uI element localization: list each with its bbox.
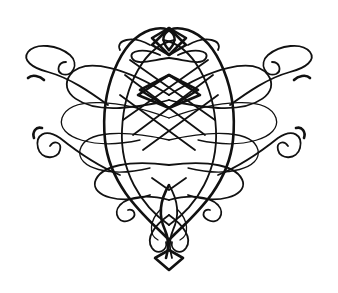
ornament-canvas: Calligraphic flourish ornament, symmetri… (0, 0, 338, 293)
calligraphic-flourish-icon (0, 0, 338, 293)
diamond-drop-icon (155, 250, 183, 270)
